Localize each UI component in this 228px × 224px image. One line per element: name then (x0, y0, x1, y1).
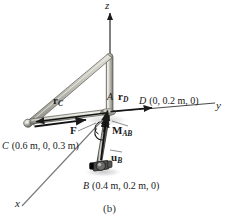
vector-subscript-uB: B (117, 156, 122, 165)
axis-label-y: y (216, 100, 221, 111)
axis-label-x: x (15, 198, 20, 209)
arrow-rD (111, 108, 153, 112)
vector-label-rC: rC (53, 95, 63, 107)
vector-label-uB: uB (111, 152, 122, 164)
point-label-B: B(0.4 m, 0.2 m, 0) (83, 176, 159, 192)
point-coords-C: (0.6 m, 0, 0.3 m) (12, 140, 79, 151)
mechanics-figure: z y x A D(0, 0.2 m, 0) C(0.6 m, 0, 0.3 m… (0, 0, 228, 224)
point-label-B-letter: B (83, 180, 89, 191)
vector-subscript-rC: C (58, 99, 63, 108)
point-coords-B: (0.4 m, 0.2 m, 0) (92, 180, 159, 191)
point-label-D: D(0, 0.2 m, 0) (139, 91, 199, 107)
axis-label-z: z (105, 0, 109, 11)
vector-symbol-MAB: M (112, 124, 122, 136)
vector-subscript-rD: D (123, 95, 128, 104)
point-label-D-letter: D (139, 95, 146, 106)
point-label-A: A (107, 92, 113, 102)
vector-label-F: F (70, 125, 77, 136)
vertical-post-member (106, 53, 113, 112)
point-coords-D: (0, 0.2 m, 0) (149, 95, 198, 106)
point-label-C: C(0.6 m, 0, 0.3 m) (2, 136, 79, 152)
figure-caption: (b) (103, 203, 116, 214)
vector-symbol-F: F (70, 124, 77, 136)
vector-label-MAB: MAB (112, 125, 132, 137)
vector-subscript-MAB: AB (122, 129, 132, 138)
vector-label-rD: rD (118, 91, 128, 103)
point-label-C-letter: C (2, 140, 9, 151)
